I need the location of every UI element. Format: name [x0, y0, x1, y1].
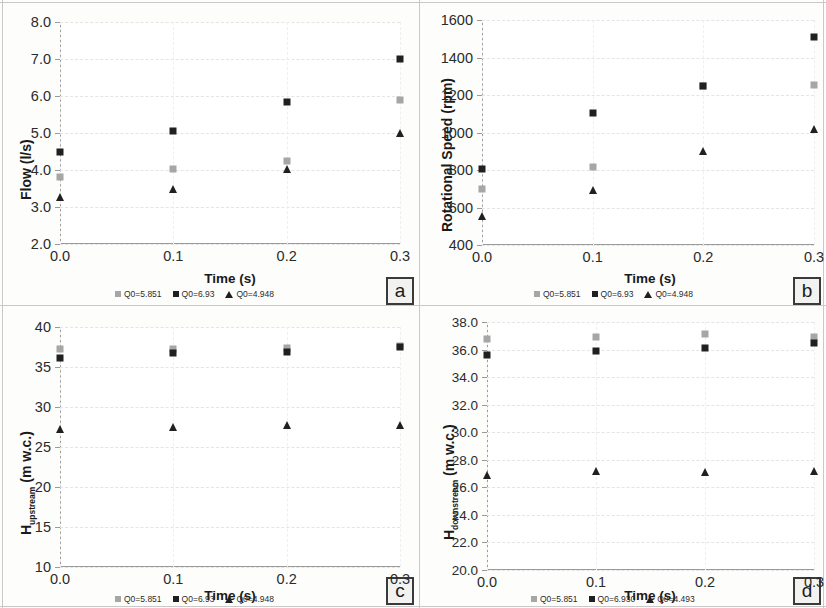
gridline-horizontal	[60, 447, 400, 449]
legend-item: Q0=4.948	[225, 594, 274, 604]
gridline-horizontal	[487, 570, 814, 572]
x-tick-label: 0.3	[804, 574, 824, 590]
y-tick-label: 32.0	[452, 397, 478, 412]
x-axis-title-a: Time (s)	[204, 271, 256, 286]
legend-square-icon	[173, 291, 179, 297]
legend-label: Q0=6.93	[182, 289, 215, 299]
gridline-horizontal	[60, 22, 400, 24]
legend-d: Q0=5.851Q0=6.930Q0=4.493	[531, 594, 695, 604]
gridline-horizontal	[482, 170, 814, 172]
x-tick-label: 0.0	[50, 248, 70, 264]
y-tick-label: 20	[35, 479, 51, 495]
x-tick-label: 0.1	[586, 574, 606, 590]
plot-area-a	[60, 22, 400, 244]
gridline-horizontal	[487, 377, 814, 379]
y-tick-label: 600	[449, 200, 473, 216]
y-tick-label: 26.0	[452, 480, 478, 495]
data-point-marker	[479, 185, 486, 192]
data-point-marker	[56, 193, 64, 201]
data-point-marker	[283, 421, 291, 429]
data-point-marker	[283, 157, 290, 164]
legend-label: Q0=5.851	[540, 594, 578, 604]
gridline-horizontal	[482, 58, 814, 60]
legend-triangle-icon	[646, 596, 654, 603]
gridline-vertical	[60, 22, 62, 244]
x-tick-label: 0.3	[390, 571, 410, 587]
data-point-marker	[283, 165, 291, 173]
gridline-vertical	[596, 322, 598, 570]
legend-triangle-icon	[225, 291, 233, 298]
legend-item: Q0=6.93	[173, 289, 215, 299]
gridline-horizontal	[60, 367, 400, 369]
data-point-marker	[484, 335, 491, 342]
gridline-horizontal	[487, 432, 814, 434]
data-point-marker	[57, 346, 64, 353]
gridline-horizontal	[487, 542, 814, 544]
data-point-marker	[811, 81, 818, 88]
legend-label: Q0=4.948	[236, 594, 274, 604]
y-tick-label: 38.0	[452, 315, 478, 330]
legend-square-icon	[592, 291, 598, 297]
gridline-horizontal	[487, 350, 814, 352]
gridline-horizontal	[482, 95, 814, 97]
legend-item: Q0=4.948	[644, 289, 693, 299]
legend-c: Q0=5.851Q0=6.93Q0=4.948	[115, 594, 274, 604]
x-tick-label: 0.3	[390, 248, 410, 264]
gridline-horizontal	[487, 322, 814, 324]
plot-area-c	[60, 327, 400, 567]
y-tick-mark	[55, 244, 60, 245]
gridline-vertical	[593, 20, 595, 245]
data-point-marker	[810, 467, 818, 475]
data-point-marker	[589, 186, 597, 194]
y-tick-label: 1200	[441, 87, 473, 103]
data-point-marker	[593, 334, 600, 341]
legend-item: Q0=5.851	[531, 594, 578, 604]
y-tick-label: 7.0	[31, 51, 51, 67]
data-point-marker	[169, 185, 177, 193]
gridline-vertical	[487, 322, 489, 570]
gridline-horizontal	[60, 133, 400, 135]
y-tick-label: 24.0	[452, 507, 478, 522]
panel-badge-a: a	[386, 277, 414, 305]
data-point-marker	[169, 423, 177, 431]
legend-square-icon	[534, 291, 540, 297]
gridline-vertical	[400, 327, 402, 567]
y-tick-label: 1600	[441, 12, 473, 28]
data-point-marker	[56, 425, 64, 433]
gridline-vertical	[60, 327, 62, 567]
data-point-marker	[397, 96, 404, 103]
gridline-horizontal	[482, 20, 814, 22]
y-tick-label: 30.0	[452, 425, 478, 440]
y-tick-mark	[477, 245, 482, 246]
data-point-marker	[699, 147, 707, 155]
x-tick-label: 0.3	[804, 249, 824, 265]
panel-c-h-upstream: Hupstream (m w.c.) Time (s) Q0=5.851Q0=6…	[0, 305, 419, 608]
y-tick-mark	[482, 570, 487, 571]
gridline-horizontal	[60, 96, 400, 98]
gridline-horizontal	[60, 407, 400, 409]
x-tick-label: 0.1	[163, 571, 183, 587]
gridline-horizontal	[60, 487, 400, 489]
data-point-marker	[702, 331, 709, 338]
data-point-marker	[170, 350, 177, 357]
gridline-horizontal	[60, 207, 400, 209]
y-tick-label: 2.0	[31, 236, 51, 252]
plot-area-d	[487, 322, 814, 570]
panel-badge-b: b	[793, 277, 821, 305]
data-point-marker	[701, 468, 709, 476]
x-tick-label: 0.2	[277, 248, 297, 264]
y-tick-label: 400	[449, 237, 473, 253]
data-point-marker	[589, 164, 596, 171]
panel-b-rotational-speed: Rotational Speed (rpm) Time (s) Q0=5.851…	[419, 0, 826, 305]
y-tick-label: 4.0	[31, 162, 51, 178]
y-tick-label: 5.0	[31, 125, 51, 141]
data-point-marker	[811, 33, 818, 40]
legend-triangle-icon	[225, 596, 233, 603]
legend-item: Q0=5.851	[534, 289, 581, 299]
y-tick-label: 35	[35, 359, 51, 375]
data-point-marker	[170, 165, 177, 172]
y-tick-label: 3.0	[31, 199, 51, 215]
y-tick-mark	[55, 567, 60, 568]
legend-a: Q0=5.851Q0=6.93Q0=4.948	[115, 289, 274, 299]
legend-label: Q0=5.851	[543, 289, 581, 299]
